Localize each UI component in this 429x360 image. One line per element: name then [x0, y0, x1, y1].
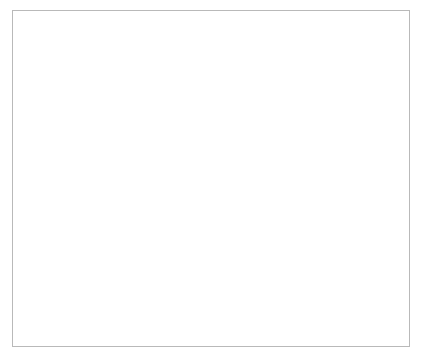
chart-frame-border	[12, 10, 410, 347]
chart-figure: 0200400600800100012001400160018002000 19…	[0, 0, 429, 360]
